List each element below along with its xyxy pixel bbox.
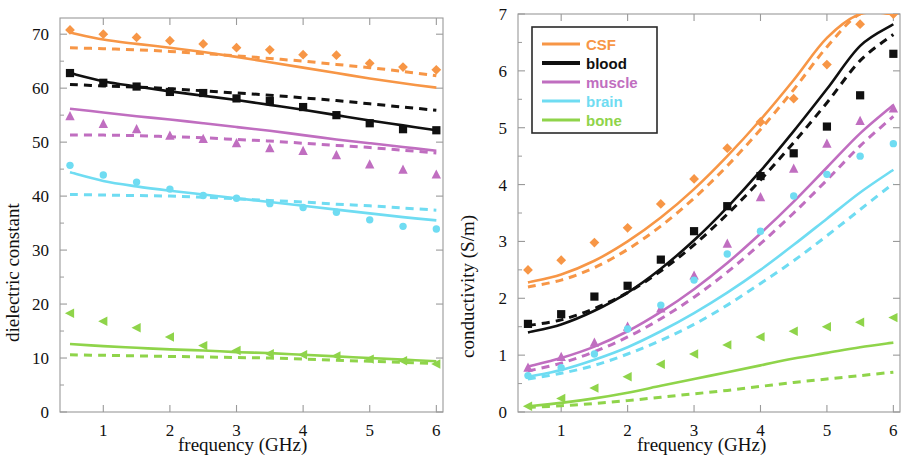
data-point-left-triangle (231, 346, 240, 355)
data-point-circle (657, 301, 664, 308)
data-point-triangle (365, 159, 374, 168)
y-tick-label: 30 (32, 241, 49, 260)
data-point-square (99, 79, 107, 87)
dielectric-constant-plot: 010203040506070123456 (0, 0, 455, 464)
data-point-circle (557, 364, 564, 371)
y-tick-label: 5 (499, 119, 508, 138)
data-point-left-triangle (822, 322, 831, 331)
y-tick-label: 70 (32, 25, 49, 44)
data-point-diamond (623, 223, 633, 233)
x-tick-label: 2 (166, 421, 175, 440)
data-point-circle (724, 250, 731, 257)
data-point-triangle (789, 164, 798, 173)
series-line-CSF-model (70, 48, 436, 76)
data-point-diamond (689, 174, 699, 184)
series-group (65, 25, 441, 369)
data-point-square (856, 91, 864, 99)
figure-root: 010203040506070123456 dielectric constan… (0, 0, 909, 464)
data-point-triangle (723, 239, 732, 248)
data-point-circle (366, 216, 373, 223)
data-point-triangle (332, 150, 341, 159)
x-tick-label: 5 (365, 421, 374, 440)
x-tick-label: 2 (623, 421, 632, 440)
data-point-left-triangle (855, 318, 864, 327)
data-point-circle (333, 209, 340, 216)
data-point-triangle (165, 131, 174, 140)
series-line-blood-model (70, 84, 436, 110)
data-point-left-triangle (888, 313, 897, 322)
x-tick-label: 6 (889, 421, 898, 440)
data-point-square (432, 126, 440, 134)
data-point-triangle (132, 124, 141, 133)
series-line-brain (70, 172, 436, 220)
legend-label-muscle[interactable]: muscle (586, 74, 638, 91)
data-point-square (133, 82, 141, 90)
data-point-circle (591, 350, 598, 357)
data-point-square (690, 227, 698, 235)
data-point-diamond (822, 60, 832, 70)
y-tick-label: 4 (499, 176, 508, 195)
data-point-left-triangle (789, 327, 798, 336)
data-point-circle (299, 204, 306, 211)
series-line-brain-model (70, 194, 436, 210)
data-point-triangle (590, 338, 599, 347)
x-tick-label: 1 (557, 421, 566, 440)
x-tick-label: 1 (99, 421, 108, 440)
series-line-blood (70, 73, 436, 130)
legend-label-CSF[interactable]: CSF (586, 36, 616, 53)
data-point-diamond (265, 45, 275, 55)
data-point-square (399, 125, 407, 133)
data-point-diamond (232, 43, 242, 53)
y-tick-label: 3 (499, 232, 508, 251)
data-point-left-triangle (331, 351, 340, 360)
data-point-circle (790, 192, 797, 199)
y-tick-label: 6 (499, 62, 508, 81)
y-tick-label: 10 (32, 349, 49, 368)
y-tick-label: 20 (32, 295, 49, 314)
series-line-bone-model (528, 372, 893, 407)
legend-label-brain[interactable]: brain (586, 93, 623, 110)
data-point-square (624, 282, 632, 290)
data-point-left-triangle (523, 402, 532, 411)
series-line-CSF (70, 33, 436, 88)
data-point-square (266, 97, 274, 105)
data-point-triangle (298, 146, 307, 155)
y-axis-label-left: dielectric constant (2, 92, 24, 342)
data-point-square (166, 88, 174, 96)
panel-dielectric-constant: 010203040506070123456 dielectric constan… (0, 0, 455, 464)
data-point-diamond (332, 50, 342, 60)
conductivity-plot: 01234567123456CSFbloodmusclebrainbone (455, 0, 909, 464)
data-point-square (299, 103, 307, 111)
data-point-circle (433, 225, 440, 232)
y-tick-label: 60 (32, 79, 49, 98)
data-point-circle (233, 195, 240, 202)
data-point-circle (624, 325, 631, 332)
data-point-diamond (889, 9, 899, 19)
legend-label-bone[interactable]: bone (586, 112, 622, 129)
data-point-triangle (756, 192, 765, 201)
data-point-square (657, 256, 665, 264)
data-point-left-triangle (98, 317, 107, 326)
data-point-square (790, 149, 798, 157)
data-point-square (557, 310, 565, 318)
series-line-muscle (70, 109, 436, 151)
data-point-diamond (656, 199, 666, 209)
x-axis-label-right: frequency (GHz) (637, 434, 766, 456)
y-tick-label: 0 (499, 403, 508, 422)
data-point-square (366, 119, 374, 127)
data-point-triangle (398, 165, 407, 174)
data-point-diamond (431, 65, 441, 75)
data-point-triangle (855, 116, 864, 125)
data-point-left-triangle (398, 356, 407, 365)
data-point-left-triangle (623, 372, 632, 381)
legend-label-blood[interactable]: blood (586, 55, 627, 72)
data-point-square (723, 202, 731, 210)
data-point-square (889, 50, 897, 58)
data-point-triangle (99, 119, 108, 128)
y-tick-label: 2 (499, 289, 508, 308)
data-point-diamond (556, 255, 566, 265)
x-axis-label-left: frequency (GHz) (178, 434, 307, 456)
y-tick-label: 1 (499, 346, 508, 365)
data-point-left-triangle (656, 360, 665, 369)
data-point-left-triangle (722, 340, 731, 349)
